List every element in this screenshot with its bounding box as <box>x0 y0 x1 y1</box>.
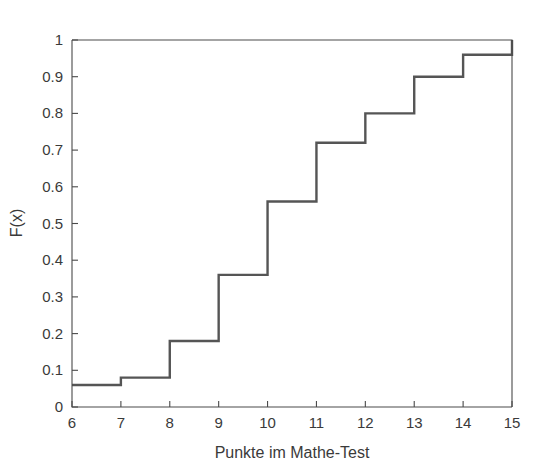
x-tick-label: 12 <box>357 414 374 431</box>
y-tick-label: 0.1 <box>42 361 63 378</box>
y-tick-label: 0.8 <box>42 104 63 121</box>
x-tick-label: 8 <box>166 414 174 431</box>
x-tick-label: 15 <box>504 414 521 431</box>
x-tick-label: 9 <box>214 414 222 431</box>
y-tick-label: 0.6 <box>42 178 63 195</box>
y-tick-label: 0.3 <box>42 288 63 305</box>
x-tick-label: 10 <box>259 414 276 431</box>
y-tick-label: 0.9 <box>42 68 63 85</box>
y-tick-label: 0.5 <box>42 215 63 232</box>
chart-background <box>0 0 550 472</box>
x-tick-label: 7 <box>117 414 125 431</box>
y-tick-label: 0.2 <box>42 325 63 342</box>
y-tick-label: 0.4 <box>42 251 63 268</box>
x-tick-label: 13 <box>406 414 423 431</box>
x-axis-title: Punkte im Mathe-Test <box>215 444 370 461</box>
y-axis-title: F(x) <box>8 209 25 237</box>
y-tick-label: 0 <box>55 398 63 415</box>
y-tick-label: 0.7 <box>42 141 63 158</box>
x-tick-label: 6 <box>68 414 76 431</box>
figure-container: 6789101112131415 00.10.20.30.40.50.60.70… <box>0 0 550 472</box>
y-tick-label: 1 <box>55 31 63 48</box>
x-tick-label: 11 <box>309 414 325 431</box>
x-tick-label: 14 <box>455 414 472 431</box>
cdf-step-chart: 6789101112131415 00.10.20.30.40.50.60.70… <box>0 0 550 472</box>
